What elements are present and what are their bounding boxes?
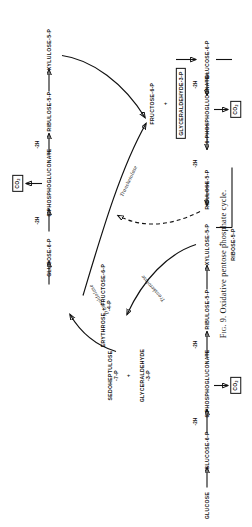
glyceraldehyde-cycle-label: GLYCERALDEHYDE <box>139 348 145 402</box>
cofactor-2h-6: -2H <box>193 159 199 167</box>
plus-sign-2: + <box>125 373 131 376</box>
product-co2-top: CO2 <box>12 175 23 192</box>
co2-label: CO <box>14 180 20 188</box>
figure-caption-text: Oxidative pentose phosphate cycle. <box>219 189 228 313</box>
metabolite-sedoheptulose-7-p: SEDOHEPTULOSE -7-P <box>107 350 120 400</box>
figure-caption-prefix: Fig. 9. <box>219 315 228 338</box>
cofactor-2h-1: -2H <box>193 417 199 425</box>
figure-caption: Fig. 9. Oxidative pentose phosphate cycl… <box>219 29 228 499</box>
cofactor-2h-2: -2H <box>193 340 199 348</box>
metabolite-6-phosphogluconate-b: 6-PHOSPHOGLUCONATE <box>46 148 52 216</box>
metabolite-glyceraldehyde-3-p-cycle: GLYCERALDEHYDE -3-P <box>139 348 152 402</box>
plus-sign-3: + <box>162 101 168 104</box>
sedoheptulose-label: SEDOHEPTULOSE <box>107 350 113 400</box>
metabolite-xylulose-5-p-b: XYLULOSE-5-P <box>46 28 52 69</box>
glyceraldehyde-cycle-sublabel: -3-P <box>145 369 151 380</box>
metabolite-glucose-6-p-b: GLUCOSE-6-P <box>46 238 52 277</box>
co2-subscript: 2 <box>17 178 21 180</box>
cofactor-2h-3: -2H <box>35 216 41 224</box>
metabolite-ribulose-5-p-b: RIBULOSE-5-P <box>46 91 52 131</box>
cofactor-2h-5: -2H <box>193 80 199 88</box>
sedoheptulose-sublabel: -7-P <box>113 369 119 380</box>
cofactor-2h-4: -2H <box>35 140 41 148</box>
metabolite-fructose-6-p: FRUCTOSE-6-P <box>149 82 155 124</box>
figure-caption-container: Fig. 9. Oxidative pentose phosphate cycl… <box>200 0 246 527</box>
product-glyceraldehyde-3-p: GLYCERALDEHYDE-3-P <box>176 68 186 139</box>
